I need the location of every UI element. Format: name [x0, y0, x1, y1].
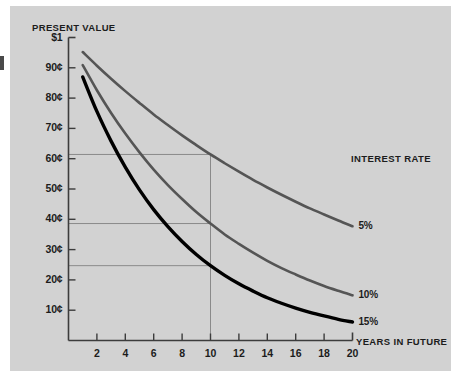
x-axis-title: Years in future [356, 336, 447, 347]
x-tick-label: 8 [167, 347, 197, 359]
curve-10pct [83, 65, 353, 295]
y-tick-label: 40¢ [21, 212, 63, 224]
x-tick-label: 16 [281, 347, 311, 359]
y-tick-label: 30¢ [21, 243, 63, 255]
y-tick-label: 60¢ [21, 152, 63, 164]
figure-canvas: Present value Years in future Interest r… [0, 0, 457, 390]
x-tick-label: 4 [110, 347, 140, 359]
curve-15pct [83, 77, 353, 322]
y-tick-label: 10¢ [21, 303, 63, 315]
y-tick-label: 70¢ [21, 121, 63, 133]
x-tick-label: 10 [196, 347, 226, 359]
y-tick-label: 90¢ [21, 61, 63, 73]
x-tick-label: 12 [224, 347, 254, 359]
y-tick-label: 50¢ [21, 182, 63, 194]
x-tick-label: 14 [252, 347, 282, 359]
y-tick-label: 20¢ [21, 273, 63, 285]
x-tick-label: 20 [338, 347, 368, 359]
y-tick-label: $1 [21, 31, 63, 43]
series-label-15pct: 15% [359, 316, 378, 327]
legend-title: Interest rate [351, 153, 431, 164]
data-curves [83, 52, 353, 322]
x-tick-label: 18 [309, 347, 339, 359]
y-tick-label: 80¢ [21, 91, 63, 103]
chart-plot-area [0, 0, 457, 390]
x-tick-label: 6 [139, 347, 169, 359]
series-label-5pct: 5% [359, 220, 373, 231]
curve-5pct [83, 52, 353, 226]
x-tick-label: 2 [82, 347, 112, 359]
series-label-10pct: 10% [359, 289, 378, 300]
